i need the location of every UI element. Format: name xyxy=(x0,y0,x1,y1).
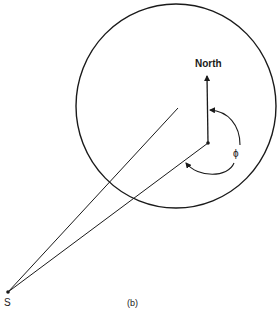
diagram-canvas: North ϕ S (b) xyxy=(0,0,277,311)
angle-arc-lower xyxy=(186,163,234,174)
source-label: S xyxy=(4,297,11,308)
north-arrow xyxy=(207,76,208,143)
source-point xyxy=(6,290,10,294)
upper-ray xyxy=(8,108,178,292)
angle-arc-upper xyxy=(210,110,240,145)
boundary-circle xyxy=(76,4,276,208)
figure-caption: (b) xyxy=(127,298,138,308)
angle-label: ϕ xyxy=(233,148,239,159)
lower-ray xyxy=(8,143,208,292)
center-point xyxy=(206,141,210,145)
north-label: North xyxy=(195,58,222,69)
